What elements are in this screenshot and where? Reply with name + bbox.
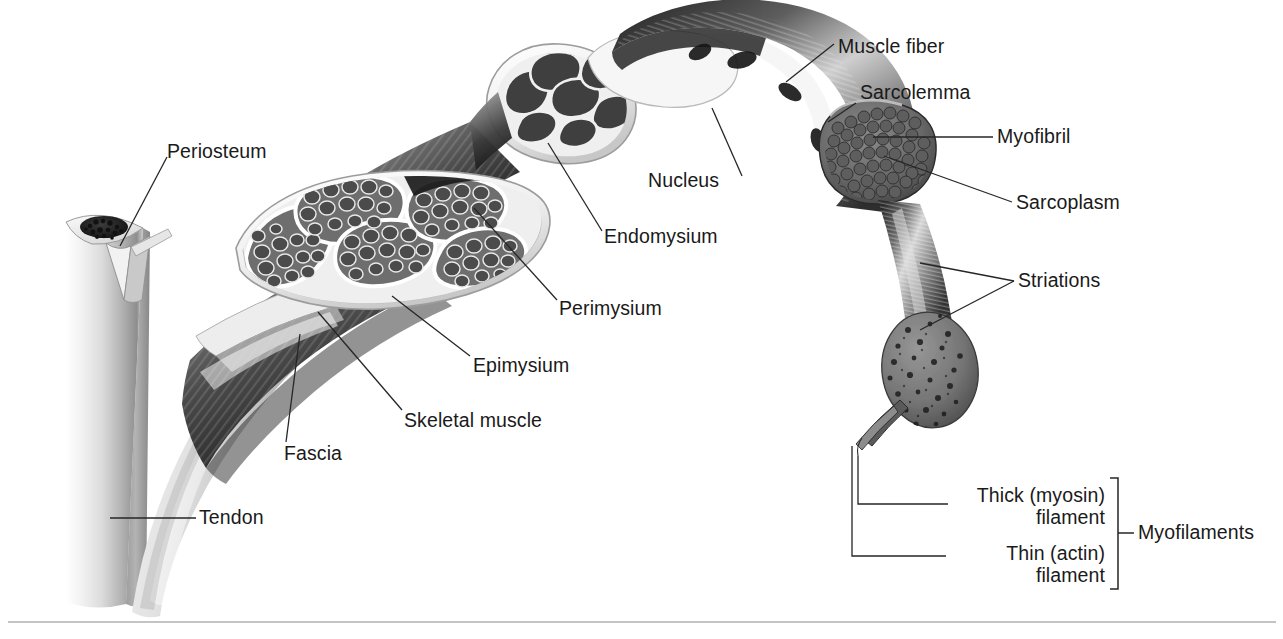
label-nucleus: Nucleus bbox=[648, 170, 719, 192]
label-thick-filament: Thick (myosin) filament bbox=[950, 485, 1105, 529]
label-epimysium: Epimysium bbox=[473, 355, 569, 377]
thick-filament-line-2: filament bbox=[1036, 506, 1105, 528]
label-myofibril: Myofibril bbox=[997, 126, 1071, 148]
label-tendon: Tendon bbox=[199, 507, 264, 529]
thick-filament-line-1: Thick (myosin) bbox=[977, 484, 1105, 506]
label-fascia: Fascia bbox=[284, 443, 342, 465]
figure-skeletal-muscle-structure: Periosteum Tendon Fascia Skeletal muscle… bbox=[0, 0, 1283, 639]
label-endomysium: Endomysium bbox=[604, 226, 718, 248]
thin-filament-line-2: filament bbox=[1036, 564, 1105, 586]
label-sarcolemma: Sarcolemma bbox=[860, 82, 970, 104]
myofilaments-bracket bbox=[1110, 478, 1134, 589]
muscle-fiber-structure bbox=[588, 0, 936, 212]
label-sarcoplasm: Sarcoplasm bbox=[1016, 192, 1120, 214]
label-muscle-fiber: Muscle fiber bbox=[838, 36, 944, 58]
label-periosteum: Periosteum bbox=[167, 141, 267, 163]
thin-filament-line-1: Thin (actin) bbox=[1006, 542, 1105, 564]
label-striations: Striations bbox=[1018, 270, 1100, 292]
label-perimysium: Perimysium bbox=[559, 298, 662, 320]
myofibril-structure bbox=[856, 200, 986, 456]
label-thin-filament: Thin (actin) filament bbox=[950, 543, 1105, 587]
label-skeletal-muscle: Skeletal muscle bbox=[404, 410, 542, 432]
label-myofilaments: Myofilaments bbox=[1138, 522, 1254, 544]
myofilament-strands bbox=[856, 400, 908, 456]
